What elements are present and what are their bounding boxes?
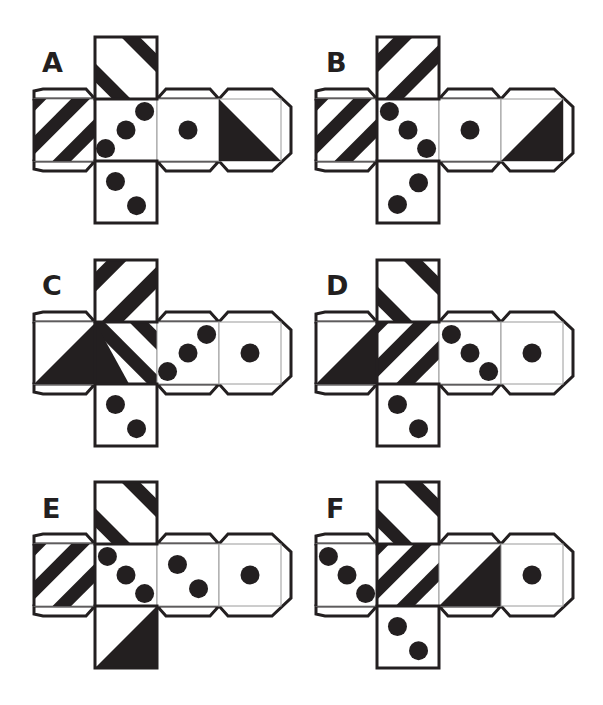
glue-flap (316, 89, 377, 99)
pip-dot (189, 579, 208, 598)
glue-flap (316, 161, 377, 171)
face-left (34, 99, 96, 161)
face-bottom (95, 384, 157, 446)
face-right-1 (439, 322, 501, 384)
pip-dot (135, 584, 154, 603)
pip-dot (388, 395, 407, 414)
glue-flap (439, 534, 501, 544)
face-bottom (377, 161, 439, 223)
net-label: B (326, 47, 347, 78)
face-right-1 (157, 322, 219, 384)
face-right-2 (501, 99, 563, 161)
net-label: F (326, 493, 344, 524)
face-right-2 (219, 544, 281, 606)
cube-nets-figure: ABCDEF (0, 0, 603, 705)
glue-flap (157, 606, 219, 616)
cube-net-c: C (34, 260, 291, 446)
glue-flap (316, 534, 377, 544)
face-bottom (95, 606, 157, 668)
pip-dot (168, 555, 187, 574)
face-top (95, 482, 157, 544)
cube-net-d: D (316, 260, 573, 446)
pip-dot (117, 566, 136, 585)
glue-flap (439, 606, 501, 616)
face-bottom (377, 606, 439, 668)
face-right-1 (439, 99, 501, 161)
face-left (34, 322, 96, 384)
pip-dot (338, 566, 357, 585)
glue-flap (439, 89, 501, 99)
net-label: D (326, 270, 348, 301)
pip-dot (380, 102, 399, 121)
pip-dot (179, 344, 198, 363)
pip-dot (197, 325, 216, 344)
pip-dot (399, 121, 418, 140)
face-center (377, 544, 439, 606)
pip-dot (106, 172, 125, 191)
pip-dot (409, 173, 428, 192)
pip-dot (356, 584, 375, 603)
net-label: E (42, 493, 60, 524)
face-top (95, 37, 157, 99)
cube-net-a: A (34, 37, 291, 223)
face-center (95, 99, 157, 161)
pip-dot (388, 195, 407, 214)
pip-dot (523, 566, 542, 585)
face-center (95, 322, 157, 384)
face-right-1 (439, 544, 501, 606)
cube-net-e: E (34, 482, 291, 668)
glue-flap (34, 606, 95, 616)
glue-flap (34, 312, 95, 322)
cube-net-f: F (316, 482, 573, 668)
glue-flap (34, 534, 95, 544)
face-top (377, 37, 439, 99)
glue-flap (157, 384, 219, 394)
pip-dot (409, 419, 428, 438)
pip-dot (127, 419, 146, 438)
pip-dot (442, 325, 461, 344)
pip-dot (388, 617, 407, 636)
pip-dot (96, 139, 115, 158)
pip-dot (409, 641, 428, 660)
face-right-2 (501, 322, 563, 384)
face-center (377, 322, 439, 384)
net-label: C (42, 270, 62, 301)
glue-flap (157, 161, 219, 171)
glue-flap (316, 384, 377, 394)
face-left (316, 544, 378, 606)
glue-flap (34, 384, 95, 394)
face-bottom (95, 161, 157, 223)
glue-flap (439, 384, 501, 394)
pip-dot (98, 547, 117, 566)
face-right-2 (219, 99, 281, 161)
face-right-2 (219, 322, 281, 384)
face-left (34, 544, 96, 606)
glue-flap (439, 161, 501, 171)
net-label: A (42, 47, 63, 78)
face-left (316, 322, 378, 384)
face-top (377, 482, 439, 544)
pip-dot (117, 121, 136, 140)
glue-flap (316, 312, 377, 322)
glue-flap (316, 606, 377, 616)
pip-dot (241, 344, 260, 363)
cube-net-b: B (316, 37, 573, 223)
pip-dot (106, 395, 125, 414)
face-bottom (377, 384, 439, 446)
pip-dot (523, 344, 542, 363)
face-right-1 (157, 544, 219, 606)
face-top (377, 260, 439, 322)
face-left (316, 99, 378, 161)
face-top (95, 260, 157, 322)
face-center (377, 99, 439, 161)
pip-dot (241, 566, 260, 585)
face-right-2 (501, 544, 563, 606)
pip-dot (319, 547, 338, 566)
glue-flap (157, 534, 219, 544)
glue-flap (34, 161, 95, 171)
glue-flap (157, 89, 219, 99)
pip-dot (461, 344, 480, 363)
face-right-1 (157, 99, 219, 161)
pip-dot (135, 102, 154, 121)
pip-dot (127, 196, 146, 215)
